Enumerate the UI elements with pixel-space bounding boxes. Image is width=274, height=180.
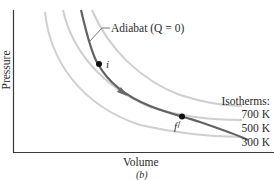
point-f-label: f bbox=[174, 120, 177, 132]
isotherm-300k-label: 300 K bbox=[242, 136, 270, 148]
point-i-marker bbox=[96, 61, 102, 67]
point-f-leader bbox=[178, 121, 180, 128]
point-i-label: i bbox=[106, 58, 109, 70]
isotherms-title: Isotherms: bbox=[221, 95, 270, 107]
y-axis-label: Pressure bbox=[0, 48, 12, 92]
pv-diagram: Pressure Volume (b) Adiabat (Q = 0) i f … bbox=[0, 0, 274, 180]
isotherm-500k-label: 500 K bbox=[242, 122, 270, 134]
isotherm-700k-label: 700 K bbox=[242, 108, 270, 120]
point-f-marker bbox=[179, 114, 185, 120]
figure-sublabel: (b) bbox=[136, 169, 148, 180]
adiabat-label: Adiabat (Q = 0) bbox=[111, 22, 184, 34]
adiabat-leader-line bbox=[89, 28, 110, 42]
x-axis-label: Volume bbox=[123, 156, 159, 168]
